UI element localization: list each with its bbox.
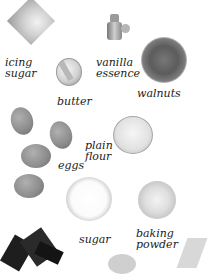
- eggs-label: eggs: [58, 160, 84, 171]
- egg-image: [47, 119, 75, 152]
- plain-flour-image: [113, 116, 153, 154]
- label-line: flour: [85, 151, 113, 162]
- vanilla-bottle-lid: [121, 24, 130, 33]
- butter-image: [56, 58, 82, 86]
- plain-flour-label: plain flour: [85, 140, 113, 162]
- walnuts-image: [141, 37, 187, 83]
- walnuts-label: walnuts: [137, 88, 181, 99]
- egg-image: [21, 144, 51, 168]
- label-line: powder: [136, 239, 178, 250]
- icing-sugar-image: [7, 0, 55, 45]
- label-line: sugar: [5, 68, 37, 79]
- icing-sugar-label: icing sugar: [5, 57, 37, 79]
- partial-item-image: [177, 238, 208, 268]
- vanilla-essence-image: [107, 22, 122, 40]
- sugar-label: sugar: [79, 234, 111, 245]
- label-line: essence: [96, 68, 140, 79]
- egg-image: [14, 174, 44, 198]
- baking-powder-image: [138, 181, 176, 219]
- baking-powder-label: baking powder: [136, 228, 178, 250]
- butter-label: butter: [57, 96, 92, 107]
- partial-bowl-image: [108, 254, 136, 274]
- vanilla-essence-label: vanilla essence: [96, 57, 140, 79]
- sugar-image: [66, 177, 112, 221]
- egg-image: [8, 105, 36, 138]
